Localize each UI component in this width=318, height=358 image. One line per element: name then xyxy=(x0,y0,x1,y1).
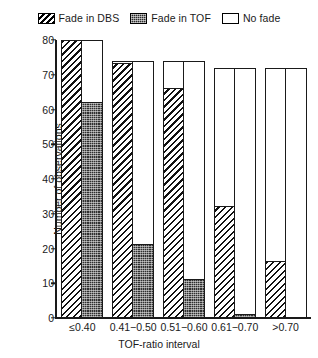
legend-item-fade-in-dbs: Fade in DBS xyxy=(38,12,120,24)
x-axis-tick-label: 0.61−0.70 xyxy=(211,321,258,333)
bar-segment-fade-in-dbs xyxy=(266,261,285,317)
bar-segment-fade-in-tof xyxy=(82,102,102,317)
bar-segment-fade-in-dbs xyxy=(164,88,183,317)
bar-group[interactable] xyxy=(163,61,205,318)
x-axis-tick-container: ≤0.400.41−0.500.51−0.600.61−0.70>0.70 xyxy=(57,321,311,337)
bar-chart-figure: Fade in DBS Fade in TOF No fade Number o… xyxy=(0,0,318,358)
legend-label-fade-in-dbs: Fade in DBS xyxy=(59,12,120,24)
bar-column-fade-in-tof-no-fade[interactable] xyxy=(82,40,103,318)
y-axis-tick-mark xyxy=(51,213,56,214)
y-axis-tick-mark xyxy=(51,39,56,40)
diagonal-hatch-swatch-icon xyxy=(38,13,55,24)
y-axis-tick-mark xyxy=(51,283,56,284)
bar-segment-fade-in-dbs xyxy=(62,40,81,317)
white-swatch-icon xyxy=(222,13,239,24)
bar-column-fade-in-dbs[interactable] xyxy=(112,61,133,318)
x-axis-title: TOF-ratio interval xyxy=(0,338,318,350)
bar-group[interactable] xyxy=(112,61,154,318)
plot-area: 01020304050607080 xyxy=(57,40,311,318)
bar-column-fade-in-tof-no-fade[interactable] xyxy=(286,68,307,318)
chart-legend: Fade in DBS Fade in TOF No fade xyxy=(0,12,318,24)
x-axis-tick-label: ≤0.40 xyxy=(69,321,95,333)
bar-segment-fade-in-dbs xyxy=(215,206,234,317)
dark-stipple-swatch-icon xyxy=(130,13,147,24)
bar-segment-fade-in-tof xyxy=(184,279,204,317)
bar-column-fade-in-dbs[interactable] xyxy=(265,68,286,318)
x-axis-tick-label: >0.70 xyxy=(272,321,299,333)
x-axis-tick-label: 0.41−0.50 xyxy=(110,321,157,333)
bar-segment-fade-in-tof xyxy=(235,314,255,317)
legend-item-fade-in-tof: Fade in TOF xyxy=(130,12,211,24)
bar-group[interactable] xyxy=(265,68,307,318)
bar-group[interactable] xyxy=(214,68,256,318)
bar-group-container xyxy=(57,40,311,318)
legend-label-fade-in-tof: Fade in TOF xyxy=(151,12,211,24)
y-axis-tick-mark xyxy=(51,178,56,179)
bar-column-fade-in-tof-no-fade[interactable] xyxy=(133,61,154,318)
bar-column-fade-in-dbs[interactable] xyxy=(163,61,184,318)
y-axis-tick-mark xyxy=(51,144,56,145)
legend-item-no-fade: No fade xyxy=(222,12,280,24)
bar-group[interactable] xyxy=(61,40,103,318)
bar-segment-fade-in-dbs xyxy=(113,63,132,317)
y-axis-tick-mark xyxy=(51,248,56,249)
y-axis-tick-mark xyxy=(51,109,56,110)
bar-column-fade-in-tof-no-fade[interactable] xyxy=(235,68,256,318)
y-axis-tick-mark xyxy=(51,317,56,318)
bar-column-fade-in-dbs[interactable] xyxy=(214,68,235,318)
legend-label-no-fade: No fade xyxy=(243,12,280,24)
y-axis-tick-mark xyxy=(51,74,56,75)
bar-column-fade-in-tof-no-fade[interactable] xyxy=(184,61,205,318)
bar-column-fade-in-dbs[interactable] xyxy=(61,40,82,318)
bar-segment-fade-in-tof xyxy=(133,244,153,317)
x-axis-tick-label: 0.51−0.60 xyxy=(160,321,207,333)
